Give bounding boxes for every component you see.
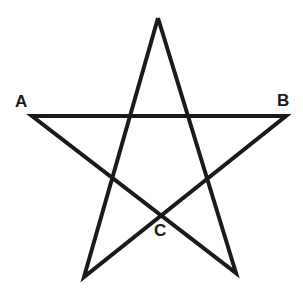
- label-b: B: [277, 92, 289, 109]
- pentagram-figure: [0, 0, 303, 292]
- label-c: C: [154, 222, 166, 239]
- label-a: A: [15, 93, 27, 110]
